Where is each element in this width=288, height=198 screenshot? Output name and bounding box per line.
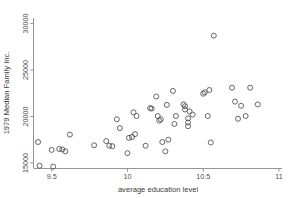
data-point <box>67 132 72 137</box>
data-point <box>126 135 131 140</box>
data-point <box>186 124 191 129</box>
data-point <box>233 99 238 104</box>
data-point <box>190 112 195 117</box>
data-point <box>92 143 97 148</box>
data-point <box>117 126 122 131</box>
data-point <box>133 132 138 137</box>
data-point <box>125 151 130 156</box>
data-point <box>205 114 210 119</box>
data-point <box>187 109 192 114</box>
data-point <box>160 140 165 145</box>
data-point <box>173 114 178 119</box>
plot-canvas: 15000200002500030000 9.51010.511 1979 Me… <box>0 0 288 198</box>
data-point <box>243 114 248 119</box>
data-point <box>211 33 216 38</box>
data-point <box>163 149 168 154</box>
data-point <box>170 88 175 93</box>
data-point <box>166 137 171 142</box>
x-tick-label: 11 <box>275 172 282 181</box>
data-point <box>104 139 109 144</box>
data-point <box>207 88 212 93</box>
y-tick-label: 30000 <box>21 14 30 34</box>
y-tick-label: 25000 <box>21 60 30 80</box>
data-point <box>230 85 235 90</box>
data-point <box>49 147 54 152</box>
data-point <box>255 102 260 107</box>
y-tick-group: 15000200002500030000 <box>21 14 34 173</box>
y-axis-title: 1979 Median Family Inc. <box>2 52 11 135</box>
data-point <box>114 117 119 122</box>
data-point <box>248 85 253 90</box>
data-point <box>172 121 177 126</box>
data-point <box>129 134 134 139</box>
data-point <box>110 144 115 149</box>
data-point <box>239 103 244 108</box>
axes-layer <box>34 18 283 169</box>
data-point <box>236 116 241 121</box>
data-point <box>134 114 139 119</box>
y-tick-label: 15000 <box>21 153 30 173</box>
y-tick-label: 20000 <box>21 106 30 126</box>
x-axis-title: average education level <box>118 185 199 194</box>
scatter-plot-figure: 15000200002500030000 9.51010.511 1979 Me… <box>0 0 288 198</box>
data-point <box>37 163 42 168</box>
x-tick-group: 9.51010.511 <box>47 169 283 182</box>
data-point <box>208 140 213 145</box>
x-tick-label: 10.5 <box>196 172 210 181</box>
data-point <box>164 102 169 107</box>
x-tick-label: 10 <box>123 172 131 181</box>
data-point <box>143 143 148 148</box>
data-point <box>154 94 159 99</box>
data-point <box>36 140 41 145</box>
x-tick-label: 9.5 <box>47 172 57 181</box>
data-point-group <box>36 33 261 169</box>
